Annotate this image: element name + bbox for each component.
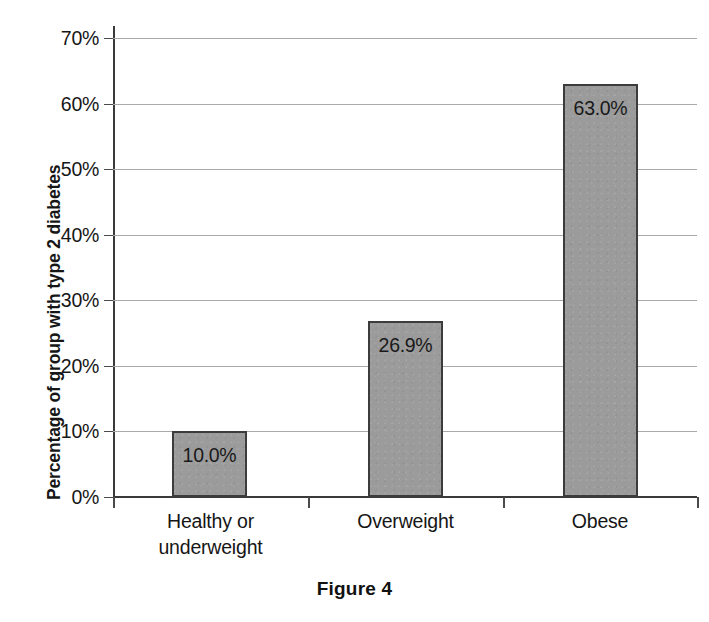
x-axis-category-label: Overweight (308, 508, 503, 534)
y-axis-tick-label: 70% (61, 27, 99, 50)
y-axis-tick-label: 0% (71, 486, 99, 509)
bar-value-label: 63.0% (565, 97, 636, 120)
x-axis-category-line: Healthy or (113, 508, 308, 534)
x-axis-category-label: Obese (503, 508, 697, 534)
y-axis-tick-mark (104, 104, 113, 105)
x-axis-category-line: Obese (503, 508, 697, 534)
y-axis-tick-label: 20% (61, 354, 99, 377)
x-axis-category-line: underweight (113, 534, 308, 560)
figure-caption: Figure 4 (0, 578, 709, 600)
y-axis-tick-label: 60% (61, 92, 99, 115)
x-axis-tick-mark (308, 497, 310, 508)
figure-container: · · · · · · Percentage of group with typ… (0, 0, 709, 622)
y-axis-tick-mark (104, 235, 113, 236)
x-axis-tick-mark (113, 497, 115, 508)
plot-area: 0%10%20%30%40%50%60%70%10.0%26.9%63.0% (113, 38, 697, 497)
gridline (113, 38, 697, 39)
x-axis-tick-mark (697, 497, 699, 508)
bar-texture (565, 86, 636, 495)
y-axis-tick-mark (104, 431, 113, 432)
x-axis-category-line: Overweight (308, 508, 503, 534)
y-axis-tick-mark (104, 497, 113, 498)
y-axis-tick-label: 30% (61, 289, 99, 312)
x-axis-tick-mark (503, 497, 505, 508)
x-axis-category-label: Healthy orunderweight (113, 508, 308, 560)
y-axis-tick-mark (104, 300, 113, 301)
scan-artifact-top-text: · · · · · · (0, 0, 709, 9)
bar-value-label: 26.9% (370, 334, 441, 357)
y-axis-tick-mark (104, 169, 113, 170)
bar-value-label: 10.0% (174, 444, 245, 467)
scan-artifact-glyphs: · · · · · · (55, 0, 132, 6)
bar[interactable]: 63.0% (563, 84, 638, 497)
bar[interactable]: 26.9% (368, 321, 443, 497)
y-axis-tick-mark (104, 38, 113, 39)
y-axis-tick-label: 10% (61, 420, 99, 443)
y-axis-tick-label: 50% (61, 158, 99, 181)
y-axis-tick-mark (104, 366, 113, 367)
bar[interactable]: 10.0% (172, 431, 247, 497)
y-axis-tick-label: 40% (61, 223, 99, 246)
